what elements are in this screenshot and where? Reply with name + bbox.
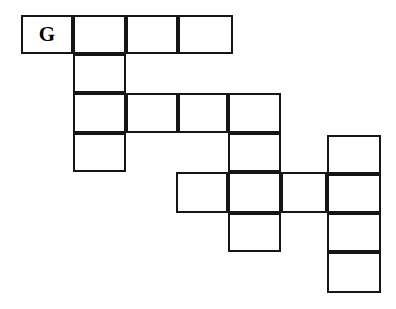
cell-r3c6[interactable] (327, 135, 381, 174)
cell-r3c1[interactable] (73, 133, 126, 172)
cell-r0c0[interactable]: G (21, 15, 73, 54)
cell-r1c1[interactable] (73, 54, 126, 93)
cell-r4c5[interactable] (281, 172, 327, 213)
cell-r4c3[interactable] (176, 172, 228, 213)
cell-r2c2[interactable] (126, 93, 178, 133)
crossword-grid: G (0, 0, 396, 309)
cell-letter: G (39, 24, 55, 45)
cell-r3c4[interactable] (228, 133, 281, 172)
cell-r0c3[interactable] (178, 15, 233, 54)
cell-r4c4[interactable] (228, 172, 281, 213)
cell-r2c1[interactable] (73, 93, 126, 133)
cell-r2c3[interactable] (178, 93, 228, 133)
cell-r5c6[interactable] (327, 213, 381, 252)
cell-r2c4[interactable] (228, 93, 281, 133)
cell-r4c6[interactable] (327, 174, 381, 213)
cell-r6c6[interactable] (327, 252, 381, 293)
cell-r0c2[interactable] (126, 15, 178, 54)
cell-r0c1[interactable] (73, 15, 126, 54)
cell-r5c4[interactable] (228, 213, 281, 252)
